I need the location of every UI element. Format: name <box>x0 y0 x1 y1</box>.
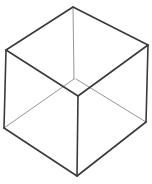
edge-upperleft-lowerleft <box>4 50 6 128</box>
edge-upperleft-front <box>6 50 78 96</box>
edge-lowerright-bottom <box>77 122 146 176</box>
edge-inner-lowerright <box>76 79 146 122</box>
edge-top-inner <box>73 7 74 79</box>
edge-front-bottom <box>77 96 78 176</box>
edge-lowerleft-bottom <box>4 128 77 176</box>
edge-upperright-lowerright <box>146 45 148 122</box>
edge-top-upperleft <box>6 7 73 50</box>
edge-top-upperright <box>73 7 148 45</box>
cube-diagram <box>0 0 152 184</box>
edge-upperright-front <box>78 45 148 96</box>
